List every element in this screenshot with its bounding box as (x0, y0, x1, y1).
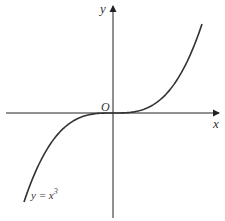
curve-label-base: y = x (30, 189, 54, 201)
origin-label: O (101, 100, 110, 114)
x-axis-label: x (212, 116, 219, 131)
curve-label: y = x3 (30, 187, 58, 201)
curve-label-exponent: 3 (53, 187, 58, 196)
y-axis-label: y (98, 1, 106, 16)
cubic-graph: x y O y = x3 (0, 0, 225, 221)
